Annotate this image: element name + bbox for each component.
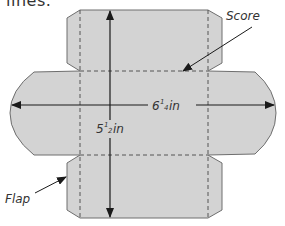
flap-callout-arrow: [35, 177, 66, 193]
svg-text:in: in: [113, 122, 124, 136]
svg-text:4: 4: [164, 104, 168, 112]
score-label: Score: [226, 9, 260, 23]
box-template-diagram: Score Flap 6 1 4 in 5 1 2 in: [0, 0, 285, 226]
svg-text:in: in: [169, 99, 180, 113]
box-net-outline: [10, 10, 276, 218]
svg-text:5: 5: [96, 122, 104, 136]
flap-label: Flap: [5, 192, 31, 206]
svg-text:6: 6: [152, 99, 160, 113]
